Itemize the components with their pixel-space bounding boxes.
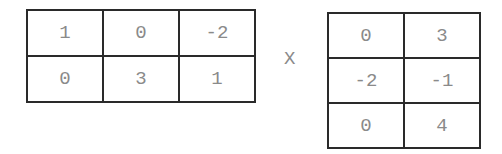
matrix-a-cell: 1 bbox=[27, 10, 103, 56]
matrix-a: 1 0 -2 0 3 1 bbox=[26, 9, 256, 103]
matrix-a-row-1: 1 0 -2 bbox=[27, 10, 255, 56]
multiplication-operator: X bbox=[284, 48, 295, 70]
matrix-b-row-1: 0 3 bbox=[328, 13, 480, 58]
matrix-a-cell: 1 bbox=[179, 56, 255, 102]
matrix-b-cell: -1 bbox=[404, 58, 480, 103]
matrix-b-cell: 3 bbox=[404, 13, 480, 58]
matrix-b-row-2: -2 -1 bbox=[328, 58, 480, 103]
matrix-b-cell: 4 bbox=[404, 103, 480, 148]
matrix-a-cell: 0 bbox=[27, 56, 103, 102]
matrix-a-row-2: 0 3 1 bbox=[27, 56, 255, 102]
matrix-b-cell: -2 bbox=[328, 58, 404, 103]
matrix-a-cell: -2 bbox=[179, 10, 255, 56]
matrix-b-row-3: 0 4 bbox=[328, 103, 480, 148]
matrix-b-cell: 0 bbox=[328, 13, 404, 58]
matrix-a-cell: 3 bbox=[103, 56, 179, 102]
matrix-b-cell: 0 bbox=[328, 103, 404, 148]
matrix-b: 0 3 -2 -1 0 4 bbox=[327, 12, 481, 149]
matrix-a-cell: 0 bbox=[103, 10, 179, 56]
